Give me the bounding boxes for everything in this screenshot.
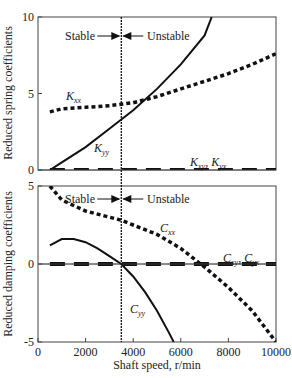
x-ticks: 0200040006000800010000 (35, 338, 291, 359)
x-tick-label: 0 (35, 345, 41, 359)
kxy-kyx-label: Kxy, Kyx (189, 155, 227, 171)
damping-coefficients-panel: -505 0200040006000800010000 Reduced damp… (1, 179, 291, 372)
unstable-label: Unstable (147, 192, 190, 206)
stable-label: Stable (65, 192, 95, 206)
cyy-label: Cyy (130, 302, 146, 318)
y-tick-label: -5 (24, 335, 34, 349)
x-tick-label: 10000 (261, 345, 291, 359)
y-tick-label: 0 (28, 257, 34, 271)
x-tick-label: 6000 (169, 345, 193, 359)
cxy-cyx-label: Cxy, Cyx (223, 251, 260, 267)
top-y-ticks: 0510 (22, 10, 42, 177)
bottom-y-axis-label: Reduced damping coefficients (1, 191, 15, 337)
stable-label: Stable (65, 29, 95, 43)
x-tick-label: 2000 (74, 345, 98, 359)
kyy-label: Kyy (93, 141, 110, 157)
y-tick-label: 0 (28, 163, 34, 177)
stability-divider (97, 17, 143, 342)
top-y-axis-label: Reduced spring coefficients (1, 26, 15, 160)
x-tick-label: 4000 (121, 345, 145, 359)
series-cyy (50, 239, 174, 342)
x-axis-label: Shaft speed, r/min (113, 358, 201, 372)
cxx-label: Cxx (160, 221, 176, 237)
y-tick-label: 5 (28, 87, 34, 101)
x-tick-label: 8000 (216, 345, 240, 359)
spring-coefficients-panel: 0510 Reduced spring coefficients Stable … (1, 10, 276, 177)
unstable-label: Unstable (147, 29, 190, 43)
y-tick-label: 10 (22, 10, 34, 24)
kxx-label: Kxx (65, 89, 82, 105)
chart-figure: 0510 Reduced spring coefficients Stable … (0, 0, 292, 378)
y-tick-label: 5 (28, 179, 34, 193)
